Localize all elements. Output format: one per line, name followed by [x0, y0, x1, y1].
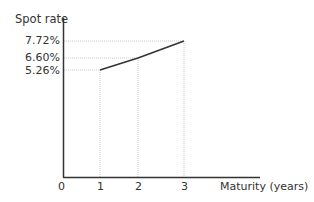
y-tick-6-60: 6.60%: [25, 52, 60, 63]
chart-canvas: [0, 0, 314, 202]
spot-rate-line: [100, 41, 184, 70]
y-tick-7-72: 7.72%: [25, 35, 60, 46]
y-axis-title: Spot rate: [15, 14, 68, 26]
x-axis-title: Maturity (years): [220, 181, 308, 192]
x-tick-0: 0: [58, 181, 65, 192]
x-tick-1: 1: [97, 181, 104, 192]
spot-rate-chart: Spot rate 7.72% 6.60% 5.26% 0 1 2 3 Matu…: [0, 0, 314, 202]
x-tick-3: 3: [181, 181, 188, 192]
x-tick-2: 2: [135, 181, 142, 192]
y-tick-5-26: 5.26%: [25, 65, 60, 76]
